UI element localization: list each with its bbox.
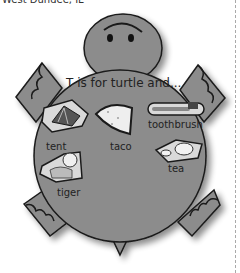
turtle-title: T is for turtle and... [65, 76, 181, 90]
toothbrush-label: toothbrush [148, 119, 203, 130]
left-eye [107, 34, 113, 42]
tiger-label: tiger [57, 187, 81, 198]
tea-label: tea [168, 163, 184, 174]
toothbrush-picture [148, 102, 204, 115]
turtle-craft: T is for turtle and... tent taco toothbr… [0, 0, 240, 273]
tent-label: tent [46, 141, 66, 152]
right-eye [128, 34, 134, 42]
taco-label: taco [110, 141, 132, 152]
